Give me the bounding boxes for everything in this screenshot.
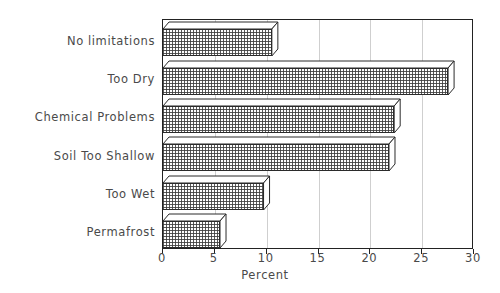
bar [163, 137, 397, 173]
x-tick-label: 10 [258, 253, 274, 265]
bar-top-face [163, 176, 270, 183]
x-axis-title-text: Percent [241, 268, 288, 282]
bar-top-face [163, 22, 278, 29]
bar [163, 61, 456, 97]
bar-front-face [163, 29, 272, 56]
category-label: Too Dry [108, 74, 155, 86]
bar [163, 214, 228, 250]
horizontal-bar-chart: No limitationsToo DryChemical ProblemsSo… [0, 0, 500, 293]
bar-front-face [163, 106, 394, 133]
bar-front-face [163, 68, 448, 95]
bar [163, 99, 402, 135]
plot-area [162, 19, 473, 249]
category-label: Too Wet [106, 189, 155, 201]
bar-top-face [163, 214, 226, 221]
bar-top-face [163, 99, 400, 106]
bar [163, 176, 272, 212]
category-label: Soil Too Shallow [54, 151, 155, 163]
bar-top-face [163, 137, 395, 144]
bar-front-face [163, 183, 264, 210]
gridline [422, 20, 423, 248]
x-tick-label: 5 [210, 253, 218, 265]
bar-top-face [163, 61, 454, 68]
category-label: Chemical Problems [35, 112, 155, 124]
x-tick-label: 20 [361, 253, 377, 265]
x-tick-label: 15 [310, 253, 326, 265]
x-axis-title: Percent [0, 270, 500, 282]
x-tick-label: 30 [465, 253, 481, 265]
category-label: No limitations [67, 36, 155, 48]
x-tick-label: 0 [158, 253, 166, 265]
bar-front-face [163, 144, 389, 171]
bar [163, 22, 280, 58]
category-label: Permafrost [87, 227, 155, 239]
bar-front-face [163, 221, 220, 248]
x-tick-label: 25 [413, 253, 429, 265]
